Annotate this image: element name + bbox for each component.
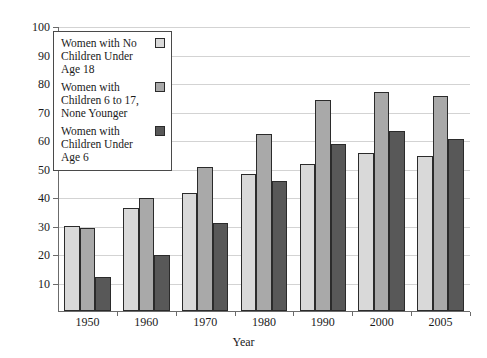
bar-chart-figure: 102030405060708090100 195019601970198019… [0, 0, 487, 358]
x-tick-label: 1950 [57, 316, 117, 328]
y-tick-label: 20 [4, 249, 50, 261]
bar [64, 226, 80, 312]
legend-item-label: Women with No Children Under Age 18 [61, 37, 165, 76]
y-tick-label: 80 [4, 78, 50, 90]
legend-item: Women with Children Under Age 6 [61, 125, 165, 164]
x-tick-label: 1960 [116, 316, 176, 328]
y-tick-label: 30 [4, 221, 50, 233]
y-tick-label: 100 [4, 21, 50, 33]
x-tick-label: 1990 [293, 316, 353, 328]
x-tick-label: 1970 [175, 316, 235, 328]
y-tick-label: 60 [4, 135, 50, 147]
y-tick-mark [53, 255, 58, 256]
bar [389, 131, 405, 311]
y-tick-label: 10 [4, 278, 50, 290]
legend-swatch-icon [155, 38, 165, 48]
y-tick-label: 50 [4, 164, 50, 176]
legend-item: Women with Children 6 to 17, None Younge… [61, 81, 165, 120]
bar [197, 167, 213, 311]
bar [256, 134, 272, 311]
bar [272, 181, 288, 311]
legend-item: Women with No Children Under Age 18 [61, 37, 165, 76]
y-tick-mark [53, 27, 58, 28]
bar [80, 228, 96, 311]
bar [374, 92, 390, 311]
x-tick-label: 2000 [352, 316, 412, 328]
bar [433, 96, 449, 311]
bar [448, 139, 464, 311]
gridline [58, 27, 470, 28]
bar [300, 164, 316, 311]
bar [182, 193, 198, 311]
bar [139, 198, 155, 311]
y-tick-mark [53, 198, 58, 199]
y-tick-label: 40 [4, 192, 50, 204]
legend-swatch-icon [155, 126, 165, 136]
bar [213, 223, 229, 311]
chart-legend: Women with No Children Under Age 18 Wome… [53, 31, 172, 171]
bar [358, 153, 374, 311]
bar [154, 255, 170, 311]
bar [315, 100, 331, 311]
x-axis-title: Year [0, 336, 487, 348]
bar [331, 144, 347, 311]
bar [123, 208, 139, 311]
y-tick-label: 90 [4, 50, 50, 62]
bar [417, 156, 433, 311]
legend-item-label: Women with Children Under Age 6 [61, 125, 165, 164]
bar [241, 174, 257, 311]
y-tick-mark [53, 227, 58, 228]
bar [95, 277, 111, 311]
cropped-header-remnant [8, 0, 98, 7]
legend-swatch-icon [155, 82, 165, 92]
x-axis-line [58, 311, 470, 312]
legend-item-label: Women with Children 6 to 17, None Younge… [61, 81, 165, 120]
x-tick-label: 2005 [411, 316, 471, 328]
y-tick-mark [53, 284, 58, 285]
y-tick-label: 70 [4, 107, 50, 119]
x-tick-label: 1980 [234, 316, 294, 328]
